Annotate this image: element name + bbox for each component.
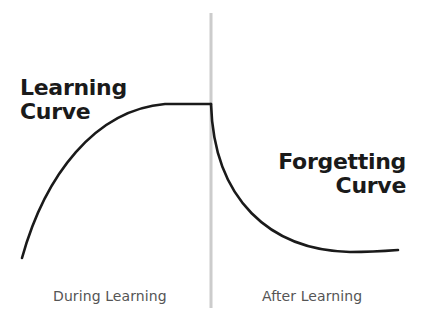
after-learning-label: After Learning [262,288,362,304]
forgetting-curve-title: Forgetting Curve [278,150,406,198]
learning-title-line2: Curve [20,100,127,124]
learning-curve-title: Learning Curve [20,76,127,124]
forgetting-title-line1: Forgetting [278,150,406,174]
during-learning-label: During Learning [53,288,167,304]
learning-curve [22,104,211,258]
forgetting-title-line2: Curve [278,174,406,198]
learning-title-line1: Learning [20,76,127,100]
